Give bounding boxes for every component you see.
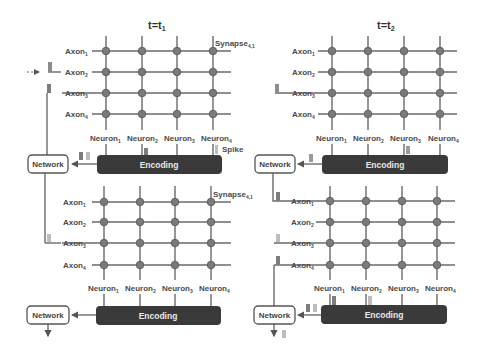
synapse-nodes-t1-top (102, 47, 217, 118)
network-label-t2-bottom: Network (259, 311, 291, 320)
synapse-label-t1-bottom: Synapse4,1 (213, 190, 253, 200)
axon-labels-t2-top: Axon1 Axon2 Axon3 Axon4 (292, 47, 315, 120)
svg-text:Axon3: Axon3 (65, 89, 88, 99)
svg-text:Neuron2: Neuron2 (127, 134, 158, 144)
synapse-nodes-t2-top (328, 47, 444, 118)
synapse-nodes-t2-bottom (326, 197, 441, 269)
svg-text:Neuron4: Neuron4 (199, 284, 230, 294)
network-label-t2-top: Network (259, 160, 291, 169)
network-label-t1-top: Network (32, 160, 64, 169)
svg-text:Axon4: Axon4 (65, 110, 88, 120)
svg-text:Axon4: Axon4 (291, 261, 314, 271)
svg-text:Axon3: Axon3 (63, 239, 86, 249)
spike-marker-t2-bottom-axon1 (276, 192, 280, 201)
crossbar-diagram: t=t1 t=t2 Axon1 Axon2 Axon3 Axon4 Neuron… (0, 0, 482, 359)
neuron-labels-t2-top: Neuron1 Neuron2 Neuron3 Neuron4 (316, 134, 459, 144)
svg-text:Neuron2: Neuron2 (125, 284, 156, 294)
svg-text:Axon2: Axon2 (292, 68, 315, 78)
svg-text:Axon1: Axon1 (65, 47, 88, 57)
svg-text:Axon2: Axon2 (63, 218, 86, 228)
svg-text:Neuron1: Neuron1 (88, 284, 119, 294)
svg-text:Axon3: Axon3 (292, 89, 315, 99)
spike-marker-t1-bottom-axon3 (47, 234, 51, 242)
svg-text:Axon4: Axon4 (63, 261, 86, 271)
svg-text:Axon2: Axon2 (65, 68, 88, 78)
panel-title-t2: t=t2 (377, 19, 395, 32)
svg-text:Neuron4: Neuron4 (201, 134, 232, 144)
panel-title-t1: t=t1 (148, 19, 166, 32)
svg-text:Neuron3: Neuron3 (162, 284, 193, 294)
svg-text:Neuron3: Neuron3 (164, 134, 195, 144)
axon-labels-t1-bottom: Axon1 Axon2 Axon3 Axon4 (63, 198, 86, 271)
svg-text:Axon2: Axon2 (291, 218, 314, 228)
svg-text:Axon3: Axon3 (291, 239, 314, 249)
input-arrow-icon (34, 69, 40, 75)
synapse-label-t1-top: Synapse4,1 (215, 39, 255, 49)
neuron-labels-t2-bottom: Neuron1 Neuron2 Neuron3 Neuron4 (314, 284, 456, 294)
svg-text:Neuron2: Neuron2 (351, 284, 382, 294)
encoding-label-t2-bottom: Encoding (365, 310, 404, 320)
spike-label: Spike (222, 145, 244, 154)
svg-text:Neuron1: Neuron1 (314, 284, 345, 294)
svg-text:Neuron4: Neuron4 (428, 134, 459, 144)
svg-text:Neuron3: Neuron3 (390, 134, 421, 144)
axon-labels-t2-bottom: Axon1 Axon2 Axon3 Axon4 (291, 197, 314, 271)
svg-text:Axon1: Axon1 (292, 47, 315, 57)
svg-text:Neuron4: Neuron4 (425, 284, 456, 294)
encoding-label-t1-bottom: Encoding (139, 311, 178, 321)
network-feedback-line-t2 (273, 173, 290, 201)
neuron-labels-t1-top: Neuron1 Neuron2 Neuron3 Neuron4 (90, 134, 232, 144)
svg-text:Neuron2: Neuron2 (353, 134, 384, 144)
encoding-label-t2-top: Encoding (366, 160, 405, 170)
svg-text:Neuron3: Neuron3 (388, 284, 419, 294)
spike-markers-t1-top (27, 62, 218, 160)
synapse-nodes-t1-bottom (100, 198, 215, 269)
axon-labels-t1-top: Axon1 Axon2 Axon3 Axon4 (65, 47, 88, 120)
svg-text:Axon1: Axon1 (63, 198, 86, 208)
encoding-label-t1-top: Encoding (140, 160, 179, 170)
neuron-labels-t1-bottom: Neuron1 Neuron2 Neuron3 Neuron4 (88, 284, 230, 294)
svg-text:Axon1: Axon1 (291, 197, 314, 207)
svg-text:Neuron1: Neuron1 (90, 134, 121, 144)
network-label-t1-bottom: Network (32, 311, 64, 320)
svg-text:Axon4: Axon4 (292, 110, 315, 120)
svg-text:Neuron1: Neuron1 (316, 134, 347, 144)
